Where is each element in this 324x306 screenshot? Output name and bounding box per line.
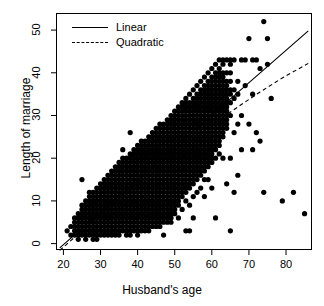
data-point	[161, 232, 166, 237]
data-point	[228, 79, 233, 84]
data-point	[261, 19, 266, 24]
data-point	[213, 62, 218, 67]
data-point	[183, 198, 188, 203]
data-point	[187, 203, 192, 208]
data-point	[231, 87, 236, 92]
data-point	[176, 215, 181, 220]
data-point	[206, 177, 211, 182]
scatter-plot-figure: 20304050607080 01020304050 Husband's age…	[0, 0, 324, 306]
data-point	[235, 173, 240, 178]
data-point	[187, 228, 192, 233]
data-point	[213, 215, 218, 220]
data-point	[187, 92, 192, 97]
data-point	[191, 87, 196, 92]
data-point	[217, 66, 222, 71]
x-tick-label: 50	[169, 259, 181, 270]
data-point	[65, 228, 70, 233]
data-point	[120, 147, 125, 152]
data-points-group	[65, 19, 308, 242]
data-point	[183, 96, 188, 101]
x-tick-label: 60	[206, 259, 218, 270]
data-point	[220, 156, 225, 161]
data-point	[235, 121, 240, 126]
data-point	[209, 66, 214, 71]
data-point	[231, 130, 236, 135]
legend-label-linear: Linear	[116, 20, 147, 35]
data-point	[239, 113, 244, 118]
data-point	[128, 130, 133, 135]
data-point	[269, 96, 274, 101]
data-point	[246, 121, 251, 126]
x-axis-title: Husband's age	[0, 283, 324, 297]
data-point	[246, 36, 251, 41]
data-point	[302, 211, 307, 216]
data-point	[280, 198, 285, 203]
x-tick-label: 70	[243, 259, 255, 270]
x-tick-label: 30	[94, 259, 106, 270]
data-point	[250, 147, 255, 152]
data-point	[243, 57, 248, 62]
legend-item-quadratic: Quadratic	[72, 35, 164, 50]
x-tick-label: 40	[131, 259, 143, 270]
chart-legend: Linear Quadratic	[72, 20, 164, 50]
data-point	[202, 194, 207, 199]
data-point	[194, 83, 199, 88]
data-point	[180, 207, 185, 212]
data-point	[261, 190, 266, 195]
data-point	[191, 215, 196, 220]
data-point	[254, 57, 259, 62]
data-point	[217, 151, 222, 156]
data-point	[231, 190, 236, 195]
data-point	[198, 185, 203, 190]
legend-key-dashed-line-icon	[72, 37, 108, 48]
data-point	[291, 190, 296, 195]
data-point	[228, 156, 233, 161]
data-point	[265, 36, 270, 41]
data-point	[213, 156, 218, 161]
data-point	[206, 70, 211, 75]
x-tick-label: 80	[280, 259, 292, 270]
data-point	[224, 181, 229, 186]
data-point	[202, 74, 207, 79]
data-point	[228, 228, 233, 233]
data-point	[257, 66, 262, 71]
y-axis-title: Length of marriage	[19, 48, 33, 208]
data-point	[198, 79, 203, 84]
legend-key-solid-line-icon	[72, 22, 108, 33]
data-point	[194, 190, 199, 195]
x-tick-label: 20	[57, 259, 69, 270]
data-point	[231, 57, 236, 62]
data-point	[239, 147, 244, 152]
linear-regression-line	[60, 31, 309, 248]
data-point	[191, 194, 196, 199]
data-point	[79, 177, 84, 182]
data-point	[257, 139, 262, 144]
data-point	[209, 185, 214, 190]
data-point	[235, 79, 240, 84]
y-tick-label: 0	[31, 233, 42, 253]
data-point	[254, 130, 259, 135]
legend-item-linear: Linear	[72, 20, 164, 35]
y-tick-label: 50	[31, 20, 42, 40]
data-point	[228, 70, 233, 75]
legend-label-quadratic: Quadratic	[116, 35, 164, 50]
